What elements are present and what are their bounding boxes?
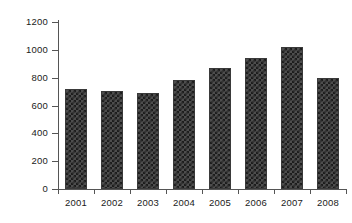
- x-tick-label-2002: 2002: [94, 197, 130, 208]
- x-tick-label-2001: 2001: [58, 197, 94, 208]
- x-tick-label-2005: 2005: [202, 197, 238, 208]
- x-tick-label-2004: 2004: [166, 197, 202, 208]
- x-tick-label-2007: 2007: [274, 197, 310, 208]
- x-tick-mark: [310, 189, 311, 194]
- x-tick-mark: [58, 189, 59, 194]
- x-tick-mark: [166, 189, 167, 194]
- x-tick-mark: [274, 189, 275, 194]
- bar-chart: Billion 2008$ 020040060080010001200 2001…: [0, 0, 352, 223]
- x-tick-mark: [130, 189, 131, 194]
- x-tick-mark: [94, 189, 95, 194]
- x-axis-ticks: 20012002200320042005200620072008: [0, 0, 352, 223]
- x-tick-label-2008: 2008: [310, 197, 346, 208]
- x-tick-label-2006: 2006: [238, 197, 274, 208]
- x-tick-mark: [238, 189, 239, 194]
- x-tick-mark: [346, 189, 347, 194]
- x-tick-mark: [202, 189, 203, 194]
- x-tick-label-2003: 2003: [130, 197, 166, 208]
